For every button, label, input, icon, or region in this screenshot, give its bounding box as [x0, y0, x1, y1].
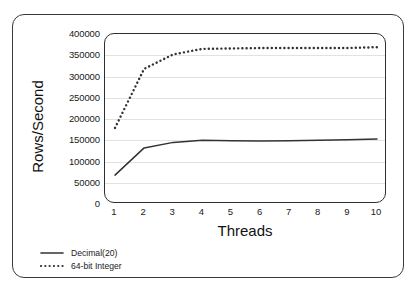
- y-axis-tick: 0: [95, 198, 100, 209]
- x-axis-tick: 10: [371, 206, 382, 217]
- series-lines: [105, 34, 386, 203]
- dotted-line-icon: [40, 261, 64, 271]
- legend-label: 64-bit Integer: [71, 261, 122, 271]
- x-axis-tick: 1: [111, 206, 116, 217]
- x-axis-tick: 6: [257, 206, 262, 217]
- y-axis-tick: 250000: [69, 91, 100, 102]
- y-axis-tick-labels: 0500001000001500002000002500003000003500…: [46, 33, 100, 203]
- y-axis-tick: 150000: [69, 134, 100, 145]
- plot-area: [104, 33, 386, 203]
- x-axis-tick: 8: [315, 206, 320, 217]
- x-axis-label: Threads: [104, 222, 386, 239]
- legend-label: Decimal(20): [71, 248, 117, 258]
- legend-item: Decimal(20): [40, 246, 200, 259]
- y-axis-label: Rows/Second: [29, 67, 46, 187]
- y-axis-tick: 300000: [69, 70, 100, 81]
- y-axis-tick: 400000: [69, 28, 100, 39]
- x-axis-tick: 5: [228, 206, 233, 217]
- y-axis-tick: 50000: [74, 176, 100, 187]
- series-line: [115, 139, 377, 175]
- y-axis-tick: 200000: [69, 113, 100, 124]
- x-axis-tick: 3: [170, 206, 175, 217]
- y-axis-tick: 100000: [69, 155, 100, 166]
- solid-line-icon: [40, 248, 64, 258]
- chart-legend: Decimal(20)64-bit Integer: [40, 246, 200, 272]
- x-axis-tick: 9: [344, 206, 349, 217]
- series-line: [115, 47, 377, 128]
- y-axis-tick: 350000: [69, 49, 100, 60]
- x-axis-tick: 2: [140, 206, 145, 217]
- chart-figure: Rows/Second 0500001000001500002000002500…: [0, 0, 418, 292]
- x-axis-tick: 7: [286, 206, 291, 217]
- x-axis-tick-labels: 12345678910: [104, 206, 386, 220]
- legend-item: 64-bit Integer: [40, 259, 200, 272]
- x-axis-tick: 4: [199, 206, 204, 217]
